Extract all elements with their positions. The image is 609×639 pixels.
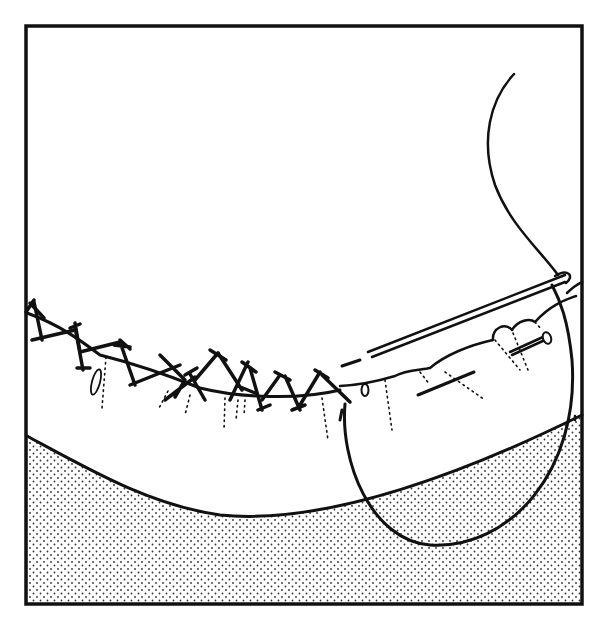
sewing-illustration <box>0 0 609 639</box>
stippled-ground <box>27 415 582 604</box>
fold-dotted-lines <box>102 322 542 440</box>
basting-stitch <box>418 372 474 395</box>
cross-stitch-row <box>26 300 350 410</box>
thread-loop-small <box>89 368 103 395</box>
thread-upper <box>488 74 558 275</box>
